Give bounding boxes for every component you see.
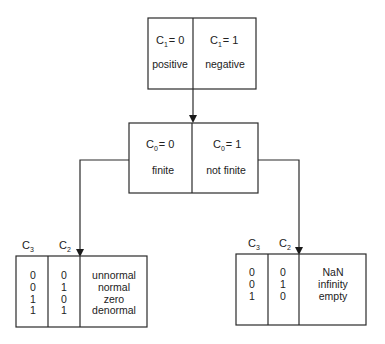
middle-right-label: not finite bbox=[206, 164, 246, 176]
cell-label: normal bbox=[98, 281, 130, 293]
cell-c3: 0 bbox=[249, 278, 255, 290]
middle-node-box bbox=[129, 123, 258, 193]
cell-label: empty bbox=[319, 290, 348, 302]
cell-c3: 1 bbox=[30, 304, 36, 316]
cell-c2: 1 bbox=[61, 304, 67, 316]
top-node-sign: C1= 0 positive C1= 1 negative bbox=[148, 18, 256, 89]
middle-left-label: finite bbox=[152, 164, 174, 176]
cell-c3: 0 bbox=[30, 269, 36, 281]
middle-node-finiteness: C0= 0 finite C0= 1 not finite bbox=[129, 123, 258, 193]
cell-c2: 0 bbox=[280, 266, 286, 278]
cell-c2: 0 bbox=[61, 269, 67, 281]
cell-label: denormal bbox=[92, 304, 136, 316]
middle-left-condition: C0= 0 bbox=[146, 138, 174, 152]
top-left-condition: C1= 0 bbox=[156, 34, 184, 48]
finite-table-header-c3: C3 bbox=[22, 239, 34, 253]
cell-c2: 0 bbox=[280, 290, 286, 302]
cell-c3: 0 bbox=[30, 281, 36, 293]
cell-c3: 1 bbox=[249, 290, 255, 302]
cell-label: infinity bbox=[318, 278, 349, 290]
top-right-condition: C1= 1 bbox=[210, 34, 238, 48]
not-finite-table-header-c3: C3 bbox=[248, 237, 260, 251]
cell-c2: 1 bbox=[61, 281, 67, 293]
cell-c2: 1 bbox=[280, 278, 286, 290]
cell-label: unnormal bbox=[92, 269, 136, 281]
top-node-box bbox=[148, 18, 256, 89]
cell-c3: 0 bbox=[249, 266, 255, 278]
cell-label: NaN bbox=[322, 266, 343, 278]
top-right-label: negative bbox=[205, 58, 245, 70]
top-left-label: positive bbox=[152, 58, 188, 70]
not-finite-table-header-c2: C2 bbox=[279, 237, 291, 251]
classification-diagram: C1= 0 positive C1= 1 negative C0= 0 fini… bbox=[0, 0, 385, 344]
finite-table-header-c2: C2 bbox=[59, 239, 71, 253]
arrowhead-icon bbox=[189, 115, 197, 123]
middle-right-condition: C0= 1 bbox=[213, 138, 241, 152]
edge-not-finite-to-table bbox=[258, 160, 299, 247]
edge-finite-to-table bbox=[80, 160, 129, 249]
